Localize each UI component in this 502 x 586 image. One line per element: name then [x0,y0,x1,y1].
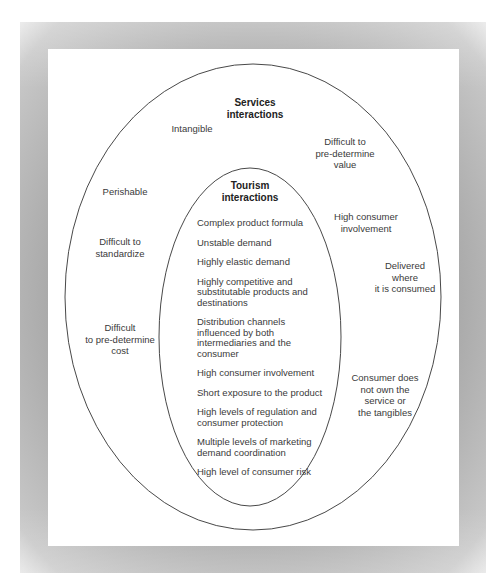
label-line: consumer [197,349,347,360]
inner-item: High levels of regulation and consumer p… [197,407,347,428]
label-line: destinations [197,298,347,309]
label-line: Perishable [95,186,155,198]
label-line: Difficult [75,322,165,334]
inner-item: High level of consumer risk [197,467,347,478]
label-line: the tangibles [340,407,430,419]
inner-item: Complex product formula [197,218,347,229]
label-line: Intangible [162,123,222,135]
label-line: High levels of regulation and [197,407,347,418]
outer-item-intangible: Intangible [162,123,222,135]
label-line: Unstable demand [197,238,347,249]
services-title-line1: Services [220,97,290,109]
label-line: service or [340,395,430,407]
label-line: Short exposure to the product [197,388,347,399]
tourism-items-list: Complex product formula Unstable demand … [197,218,347,487]
tourism-title: Tourism interactions [210,180,290,203]
label-line: consumer protection [197,418,347,429]
label-line: not own the [340,384,430,396]
label-line: Consumer does [340,372,430,384]
outer-item-predetermine-cost: Difficult to pre-determine cost [75,322,165,357]
outer-item-perishable: Perishable [95,186,155,198]
inner-item: Distribution channels influenced by both… [197,317,347,359]
outer-item-standardize: Difficult to standardize [85,236,155,259]
outer-item-delivered-where-consumed: Delivered where it is consumed [360,260,450,295]
label-line: demand coordination [197,448,347,459]
label-line: Highly elastic demand [197,257,347,268]
label-line: Delivered [360,260,450,272]
label-line: to pre-determine [75,334,165,346]
tourism-title-line2: interactions [210,192,290,204]
outer-item-consumer-does-not-own: Consumer does not own the service or the… [340,372,430,418]
label-line: High level of consumer risk [197,467,347,478]
tourism-title-line1: Tourism [210,180,290,192]
label-line: it is consumed [360,283,450,295]
label-line: High consumer involvement [197,368,347,379]
label-line: standardize [85,248,155,260]
services-title-line2: interactions [220,109,290,121]
outer-item-predetermine-value: Difficult to pre-determine value [305,136,385,171]
label-line: value [305,159,385,171]
label-line: intermediaries and the [197,338,347,349]
label-line: pre-determine [305,148,385,160]
label-line: cost [75,345,165,357]
label-line: Multiple levels of marketing [197,437,347,448]
inner-item: Multiple levels of marketing demand coor… [197,437,347,458]
services-title: Services interactions [220,97,290,120]
label-line: where [360,272,450,284]
inner-item: Highly elastic demand [197,257,347,268]
label-line: Complex product formula [197,218,347,229]
inner-item: High consumer involvement [197,368,347,379]
label-line: Distribution channels [197,317,347,328]
label-line: substitutable products and [197,287,347,298]
inner-item: Short exposure to the product [197,388,347,399]
inner-item: Highly competitive and substitutable pro… [197,277,347,309]
inner-item: Unstable demand [197,238,347,249]
label-line: Difficult to [305,136,385,148]
label-line: Difficult to [85,236,155,248]
